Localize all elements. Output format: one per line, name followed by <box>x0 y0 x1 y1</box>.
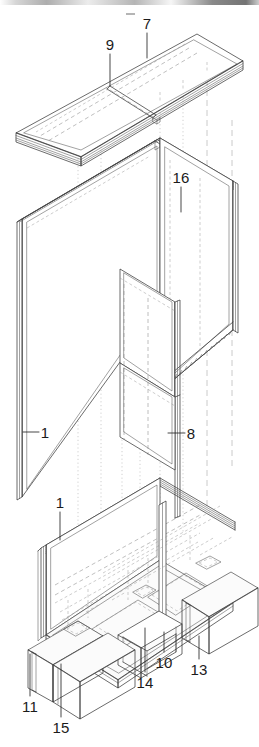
label-11: 11 <box>22 698 38 715</box>
part-base-post <box>159 501 166 629</box>
label-9: 9 <box>106 36 115 53</box>
part-center-divider <box>120 269 180 518</box>
label-7: 7 <box>143 15 152 32</box>
label-16: 16 <box>172 169 189 186</box>
label-1-lower: 1 <box>56 494 65 511</box>
label-1-upper: 1 <box>41 424 50 441</box>
label-8: 8 <box>187 425 196 442</box>
label-15: 15 <box>52 719 69 736</box>
technical-drawing-figure: 79161811013141115 <box>0 0 259 747</box>
label-10: 10 <box>155 654 172 671</box>
exploded-assembly-svg: 79161811013141115 <box>0 0 259 747</box>
label-14: 14 <box>136 674 153 691</box>
label-13: 13 <box>190 661 207 678</box>
part-top-panel <box>16 34 243 166</box>
